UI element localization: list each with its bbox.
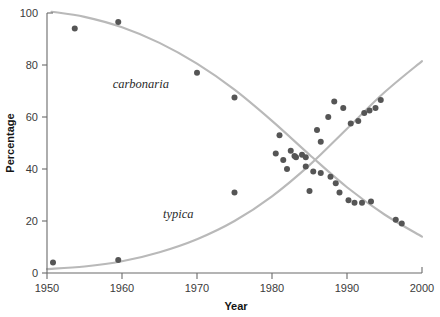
data-point: [273, 150, 279, 156]
data-point: [307, 188, 313, 194]
series-label-carbonaria: carbonaria: [113, 77, 169, 91]
data-point: [314, 127, 320, 133]
data-point: [399, 221, 405, 227]
x-tick-label: 1970: [185, 282, 209, 294]
data-point: [355, 118, 361, 124]
data-point: [303, 163, 309, 169]
data-point: [361, 110, 367, 116]
axes-layer: [42, 13, 422, 279]
series-annotations-layer: carbonariatypica: [113, 77, 194, 221]
data-point: [72, 26, 78, 32]
fit-curves-layer: [47, 12, 422, 269]
data-point: [331, 98, 337, 104]
y-axis-title: Percentage: [4, 113, 16, 172]
data-points-layer: [50, 19, 405, 266]
y-tick-label: 0: [32, 267, 38, 279]
data-point: [393, 217, 399, 223]
data-point: [346, 197, 352, 203]
data-point: [284, 166, 290, 172]
x-tick-label: 1960: [110, 282, 134, 294]
series-label-typica: typica: [163, 207, 194, 221]
data-point: [115, 257, 121, 263]
data-point: [348, 121, 354, 127]
scatter-chart: 020406080100195019601970198019902000 car…: [0, 0, 440, 317]
data-point: [367, 108, 373, 114]
plot-area: [47, 12, 422, 269]
y-tick-label: 80: [26, 59, 38, 71]
y-tick-label: 60: [26, 111, 38, 123]
data-point: [333, 180, 339, 186]
data-point: [292, 153, 298, 159]
y-tick-label: 40: [26, 163, 38, 175]
data-point: [288, 148, 294, 154]
data-point: [310, 169, 316, 175]
data-point: [378, 97, 384, 103]
data-point: [232, 95, 238, 101]
y-tick-label: 20: [26, 215, 38, 227]
fit-curve-carbonaria-fit: [52, 12, 423, 237]
data-point: [318, 139, 324, 145]
data-point: [325, 114, 331, 120]
axis-labels-layer: 020406080100195019601970198019902000: [20, 7, 435, 294]
data-point: [277, 132, 283, 138]
x-axis-title: Year: [224, 300, 248, 312]
data-point: [368, 199, 374, 205]
data-point: [303, 154, 309, 160]
x-tick-label: 2000: [410, 282, 434, 294]
chart-canvas: 020406080100195019601970198019902000 car…: [0, 0, 440, 317]
data-point: [280, 157, 286, 163]
x-tick-label: 1990: [335, 282, 359, 294]
data-point: [232, 189, 238, 195]
data-point: [340, 105, 346, 111]
data-point: [337, 189, 343, 195]
data-point: [373, 105, 379, 111]
data-point: [359, 200, 365, 206]
data-point: [318, 170, 324, 176]
x-tick-label: 1950: [35, 282, 59, 294]
fit-curve-typica-fit: [47, 61, 422, 269]
data-point: [194, 70, 200, 76]
data-point: [115, 19, 121, 25]
data-point: [50, 260, 56, 266]
data-point: [328, 174, 334, 180]
y-tick-label: 100: [20, 7, 38, 19]
data-point: [352, 200, 358, 206]
x-tick-label: 1980: [260, 282, 284, 294]
